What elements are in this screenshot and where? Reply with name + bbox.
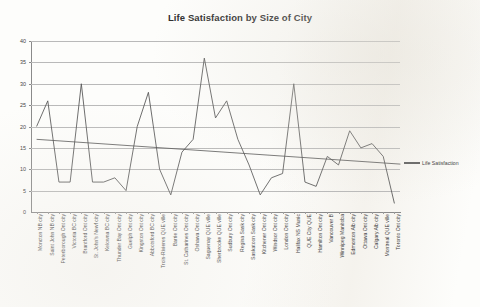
y-tick-label-5: 5 bbox=[0, 188, 26, 194]
x-tick-mark bbox=[249, 212, 250, 214]
legend-label-life-satisfaction: Life Satisfaction bbox=[422, 160, 459, 166]
x-tick-label: Sudbury Ont city bbox=[228, 214, 233, 252]
x-axis-labels: Moncton NB citySaint John NB cityPeterbo… bbox=[31, 214, 400, 306]
x-tick-label: Trois-Rivieres QUE ville bbox=[161, 214, 166, 268]
x-tick-label: Kitchener Ont city bbox=[262, 214, 267, 254]
y-tick-label-40: 40 bbox=[0, 38, 26, 44]
legend-swatch-life-satisfaction bbox=[404, 162, 420, 164]
x-tick-mark bbox=[171, 212, 172, 214]
x-tick-label: Barrie Ont city bbox=[173, 214, 178, 246]
x-tick-mark bbox=[126, 212, 127, 214]
x-tick-label: Kelowna BC city bbox=[105, 214, 110, 251]
x-tick-label: Ottawa Ont city bbox=[363, 214, 368, 249]
x-tick-label: Oshawa Ont city bbox=[195, 214, 200, 251]
y-tick-label-30: 30 bbox=[0, 81, 26, 87]
x-tick-label: Halifax NS Munic bbox=[296, 214, 301, 253]
y-tick-label-35: 35 bbox=[0, 59, 26, 65]
x-tick-mark bbox=[227, 212, 228, 214]
x-tick-mark bbox=[361, 212, 362, 214]
x-tick-label: Sherbrooke QUE ville bbox=[217, 214, 222, 263]
x-tick-mark bbox=[260, 212, 261, 214]
x-tick-mark bbox=[115, 212, 116, 214]
x-tick-mark bbox=[160, 212, 161, 214]
x-tick-label: Windsor Ont city bbox=[273, 214, 278, 251]
x-tick-mark bbox=[148, 212, 149, 214]
x-tick-mark bbox=[383, 212, 384, 214]
y-tick-label-10: 10 bbox=[0, 166, 26, 172]
x-tick-mark bbox=[204, 212, 205, 214]
data-line bbox=[37, 58, 395, 203]
x-tick-mark bbox=[316, 212, 317, 214]
x-tick-mark bbox=[305, 212, 306, 214]
x-tick-mark bbox=[294, 212, 295, 214]
x-tick-mark bbox=[182, 212, 183, 214]
x-tick-mark bbox=[193, 212, 194, 214]
x-tick-label: Guelph Ont city bbox=[128, 214, 133, 249]
x-tick-mark bbox=[70, 212, 71, 214]
chart-container: Life Satisfaction by Size of City 051015… bbox=[0, 0, 480, 307]
x-tick-label: St. Catharines Ont city bbox=[184, 214, 189, 265]
x-tick-mark bbox=[350, 212, 351, 214]
x-tick-mark bbox=[137, 212, 138, 214]
x-tick-label: Montreal QUE ville bbox=[385, 214, 390, 256]
x-tick-mark bbox=[48, 212, 49, 214]
x-tick-label: Moncton NB city bbox=[38, 214, 43, 251]
x-tick-mark bbox=[372, 212, 373, 214]
plot-area bbox=[31, 41, 400, 212]
x-tick-mark bbox=[339, 212, 340, 214]
y-tick-label-25: 25 bbox=[0, 102, 26, 108]
legend: Life Satisfaction bbox=[404, 160, 459, 166]
x-tick-label: Peterborough Ont city bbox=[61, 214, 66, 264]
x-tick-mark bbox=[238, 212, 239, 214]
chart-title: Life Satisfaction by Size of City bbox=[0, 12, 480, 23]
y-tick-label-20: 20 bbox=[0, 124, 26, 130]
x-tick-label: Winnipeg Manitoba bbox=[340, 214, 345, 258]
x-tick-mark bbox=[394, 212, 395, 214]
x-tick-label: Kingston Ont city bbox=[139, 214, 144, 253]
x-tick-mark bbox=[59, 212, 60, 214]
x-tick-label: London Ont city bbox=[284, 214, 289, 250]
x-tick-label: Abbotsford BC city bbox=[150, 214, 155, 256]
x-tick-label: St. John's Newf city bbox=[94, 214, 99, 258]
x-tick-mark bbox=[104, 212, 105, 214]
x-tick-mark bbox=[81, 212, 82, 214]
x-tick-label: Toronto Ont city bbox=[396, 214, 401, 250]
series-line-life-satisfaction bbox=[31, 41, 400, 212]
x-tick-label: Edmonton Alb city bbox=[351, 214, 356, 255]
y-tick-label-15: 15 bbox=[0, 145, 26, 151]
y-tick-label-0: 0 bbox=[0, 209, 26, 215]
y-axis-labels: 0510152025303540 bbox=[0, 0, 31, 307]
x-tick-label: Thunder Bay Ont city bbox=[117, 214, 122, 262]
x-tick-label: Saskatoon Sask city bbox=[251, 214, 256, 260]
x-tick-mark bbox=[327, 212, 328, 214]
x-tick-mark bbox=[37, 212, 38, 214]
x-tick-label: Hamilton Ont city bbox=[318, 214, 323, 253]
x-tick-label: Regina Sask city bbox=[240, 214, 245, 252]
x-tick-label: Brantford Ont city bbox=[83, 214, 88, 254]
x-tick-mark bbox=[283, 212, 284, 214]
x-tick-mark bbox=[271, 212, 272, 214]
x-tick-label: Saguenay QUE ville bbox=[206, 214, 211, 260]
x-tick-mark bbox=[216, 212, 217, 214]
x-tick-label: QUE City QUE bbox=[307, 214, 312, 248]
x-tick-label: Saint John NB city bbox=[50, 214, 55, 256]
x-tick-label: Vancouver B bbox=[329, 214, 334, 243]
x-tick-label: Victoria BC city bbox=[72, 214, 77, 248]
x-tick-mark bbox=[93, 212, 94, 214]
x-tick-label: Calgary Alb city bbox=[374, 214, 379, 249]
